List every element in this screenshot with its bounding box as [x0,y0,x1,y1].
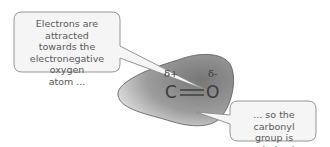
partial-positive-charge: δ+ [164,68,178,79]
callout-left-line: atom ... [16,76,118,88]
callout-right-line: group is polarized. [232,132,316,147]
oxygen-atom: O [206,82,219,102]
callout-left-line: towards the [16,41,118,53]
callout-right-line: ... so the carbonyl [232,109,316,132]
callout-left-line: Electrons are attracted [16,18,118,41]
partial-negative-charge: δ- [208,68,217,79]
carbon-atom: C [165,82,177,102]
callout-left-text: Electrons are attracted towards the elec… [16,18,118,87]
callout-left-line: electronegative oxygen [16,53,118,76]
callout-right-text: ... so the carbonyl group is polarized. [232,109,316,147]
